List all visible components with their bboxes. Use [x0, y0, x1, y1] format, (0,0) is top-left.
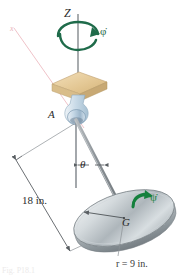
nutation-angle-label: θ [80, 158, 85, 170]
spin-rate-label: ψ̇ [150, 191, 157, 203]
precession-rate-label: φ̇ [100, 25, 106, 37]
z-axis-label: Z [64, 6, 71, 21]
dynamics-figure [0, 0, 189, 277]
x-axis-label: x [10, 24, 14, 33]
rod-length-label: 18 in. [22, 194, 47, 206]
figure-caption: Fig. P18.1 [2, 266, 35, 275]
disk-radius-label: r = 9 in. [116, 258, 148, 269]
center-of-mass-label: G [122, 216, 130, 228]
joint-point-label: A [48, 108, 55, 120]
precession-arrow-icon [58, 22, 100, 50]
